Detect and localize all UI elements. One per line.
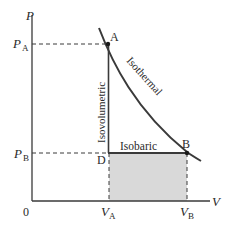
p-axis-label: P xyxy=(25,8,34,23)
va-label-sub: A xyxy=(109,211,116,221)
pa-label-sub: A xyxy=(22,43,29,53)
point-b-marker xyxy=(185,151,189,155)
pa-label-main: P xyxy=(12,36,21,51)
work-area-shading xyxy=(109,153,187,201)
pb-label-sub: B xyxy=(23,153,29,163)
origin-label: 0 xyxy=(23,205,29,219)
point-a-label: A xyxy=(110,30,119,44)
pv-diagram: P V 0 P A P B V A V B A B D Isobaric Iso… xyxy=(0,0,229,229)
v-axis-label: V xyxy=(212,194,222,209)
point-b-label: B xyxy=(182,137,190,151)
pb-label-main: P xyxy=(13,146,22,161)
isobaric-label: Isobaric xyxy=(120,140,157,152)
point-d-label: D xyxy=(97,153,106,167)
isovolumetric-label: Isovolumetric xyxy=(95,82,107,143)
vb-label-sub: B xyxy=(188,211,194,221)
